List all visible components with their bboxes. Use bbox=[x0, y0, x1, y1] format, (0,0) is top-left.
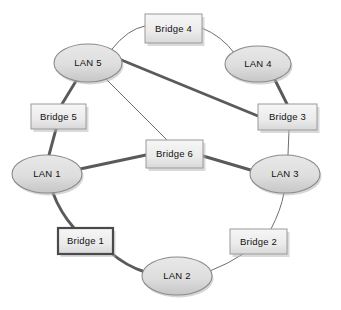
link-lan4-bridge3 bbox=[275, 80, 287, 104]
lan-node-lan4[interactable]: LAN 4 bbox=[225, 46, 293, 85]
nodes-layer: LAN 1LAN 2LAN 3LAN 4LAN 5Bridge 1Bridge … bbox=[12, 14, 322, 298]
bridge-node-bridge1[interactable]: Bridge 1 bbox=[58, 228, 116, 257]
lan-ellipse bbox=[54, 44, 122, 82]
link-bridge3-lan3 bbox=[288, 130, 289, 155]
bridge-node-bridge5[interactable]: Bridge 5 bbox=[31, 104, 89, 132]
lan-ellipse bbox=[142, 257, 212, 295]
lan-node-lan5[interactable]: LAN 5 bbox=[54, 44, 124, 85]
lan-node-lan2[interactable]: LAN 2 bbox=[142, 257, 214, 298]
link-bridge2-lan3 bbox=[271, 193, 284, 229]
link-bridge6-lan3 bbox=[203, 156, 254, 171]
bridge-node-bridge3[interactable]: Bridge 3 bbox=[258, 104, 320, 133]
link-lan5-bridge6 bbox=[104, 77, 167, 140]
bridge-box bbox=[258, 104, 317, 130]
lan-ellipse bbox=[12, 155, 82, 193]
bridge-box bbox=[146, 140, 203, 168]
lan-node-lan1[interactable]: LAN 1 bbox=[12, 155, 84, 196]
network-diagram: LAN 1LAN 2LAN 3LAN 4LAN 5Bridge 1Bridge … bbox=[0, 0, 341, 310]
link-bridge5-lan1 bbox=[49, 129, 56, 155]
lan-ellipse bbox=[225, 46, 291, 82]
bridge-box-highlighted bbox=[58, 228, 113, 254]
diagram-canvas: LAN 1LAN 2LAN 3LAN 4LAN 5Bridge 1Bridge … bbox=[0, 0, 341, 310]
bridge-box bbox=[230, 229, 287, 254]
link-lan1-bridge6 bbox=[80, 155, 146, 169]
bridge-box bbox=[145, 14, 202, 43]
link-lan5-bridge5 bbox=[62, 81, 76, 104]
bridge-node-bridge6[interactable]: Bridge 6 bbox=[146, 140, 206, 171]
bridge-node-bridge2[interactable]: Bridge 2 bbox=[230, 229, 290, 257]
link-bridge4-lan4 bbox=[202, 28, 235, 54]
bridge-node-bridge4[interactable]: Bridge 4 bbox=[145, 14, 205, 46]
lan-ellipse bbox=[250, 155, 320, 193]
lan-node-lan3[interactable]: LAN 3 bbox=[250, 155, 322, 196]
bridge-box bbox=[31, 104, 86, 129]
link-lan5-bridge4 bbox=[112, 26, 145, 49]
link-lan1-bridge1 bbox=[53, 193, 74, 228]
